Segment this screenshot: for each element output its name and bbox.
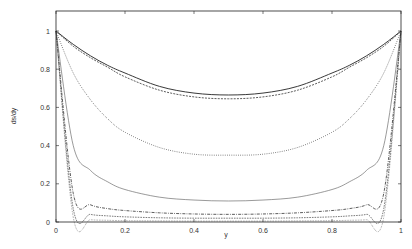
curve-6-line [56, 31, 401, 224]
y-tick-label: 0.6 [40, 104, 50, 111]
axis-ticks: 00.20.40.60.8100.20.40.60.81 [40, 11, 403, 234]
y-tick-label: 0 [46, 219, 50, 226]
y-tick-label: 0.2 [40, 180, 50, 187]
curve-3-line [56, 31, 401, 155]
x-tick-label: 0.6 [258, 227, 268, 234]
x-tick-label: 0.8 [327, 227, 337, 234]
curve-4-line [56, 31, 401, 201]
curve-5-line [56, 31, 401, 214]
plot-curves [56, 31, 401, 232]
y-tick-label: 0.4 [40, 142, 50, 149]
x-tick-label: 0.4 [189, 227, 199, 234]
x-axis-label: y [224, 231, 228, 239]
plot-frame [56, 11, 401, 222]
x-tick-label: 0 [54, 227, 58, 234]
y-tick-label: 0.8 [40, 66, 50, 73]
y-tick-label: 1 [46, 28, 50, 35]
x-tick-label: 0.2 [120, 227, 130, 234]
x-tick-label: 1 [399, 227, 403, 234]
line-chart: 00.20.40.60.8100.20.40.60.81 y ds/dy [0, 0, 412, 249]
curve-7-line [56, 31, 401, 232]
y-axis-label: ds/dy [10, 107, 18, 124]
curve-1-line [56, 31, 401, 95]
